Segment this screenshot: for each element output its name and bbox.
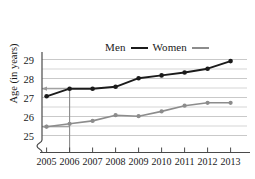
x-tick-2008: 2008 xyxy=(106,157,126,167)
x-tick-2010: 2010 xyxy=(152,157,172,167)
x-tick-2011: 2011 xyxy=(175,157,195,167)
x-axis-tick-labels: 2005 2006 2007 2008 2009 2010 2011 2012 … xyxy=(0,0,255,179)
x-tick-2009: 2009 xyxy=(129,157,149,167)
x-tick-2005: 2005 xyxy=(37,157,57,167)
line-chart: Men Women Age (in years) 29 28 27 26 25 xyxy=(0,0,255,179)
x-tick-2007: 2007 xyxy=(83,157,103,167)
x-tick-2006: 2006 xyxy=(60,157,80,167)
x-tick-2012: 2012 xyxy=(198,157,218,167)
x-tick-2013: 2013 xyxy=(221,157,241,167)
